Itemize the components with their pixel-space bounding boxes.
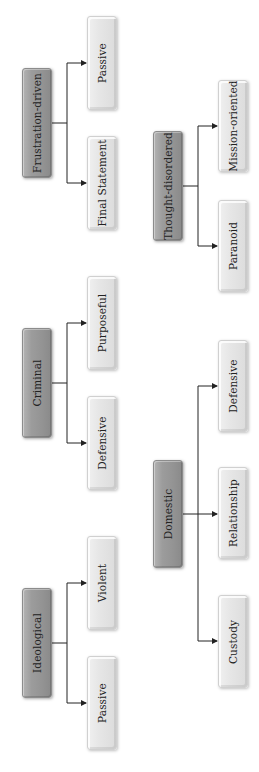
node-mission-oriented: Mission-oriented (218, 80, 248, 172)
node-label: Passive (96, 683, 108, 723)
node-label: Frustration-driven (31, 73, 43, 173)
node-criminal: Criminal (22, 328, 52, 438)
node-label: Defensive (227, 359, 239, 412)
node-label: Criminal (31, 360, 43, 407)
node-label: Domestic (162, 489, 174, 540)
node-label: Defensive (96, 416, 108, 469)
node-violent: Violent (87, 536, 117, 630)
node-defensive-criminal: Defensive (87, 396, 117, 490)
node-ideological: Ideological (22, 588, 52, 698)
node-label: Passive (96, 43, 108, 83)
node-defensive-domestic: Defensive (218, 340, 248, 432)
node-label: Mission-oriented (227, 80, 239, 171)
node-purposeful: Purposeful (87, 276, 117, 370)
node-label: Custody (227, 619, 239, 663)
node-label: Final Statement (96, 139, 108, 226)
node-passive-ideological: Passive (87, 656, 117, 750)
typology-diagram: Frustration-driven Passive Final Stateme… (0, 0, 259, 772)
node-thought-disordered: Thought-disordered (153, 131, 183, 241)
node-relationship: Relationship (218, 467, 248, 559)
node-paranoid: Paranoid (218, 200, 248, 292)
node-label: Purposeful (96, 294, 108, 353)
node-label: Relationship (227, 479, 239, 547)
node-domestic: Domestic (153, 460, 183, 568)
node-final-statement: Final Statement (87, 136, 117, 230)
node-passive: Passive (87, 16, 117, 110)
node-custody: Custody (218, 595, 248, 688)
node-label: Thought-disordered (162, 132, 174, 240)
node-label: Violent (96, 564, 108, 602)
node-label: Paranoid (227, 222, 239, 270)
node-frustration-driven: Frustration-driven (22, 68, 52, 178)
node-label: Ideological (31, 613, 43, 673)
